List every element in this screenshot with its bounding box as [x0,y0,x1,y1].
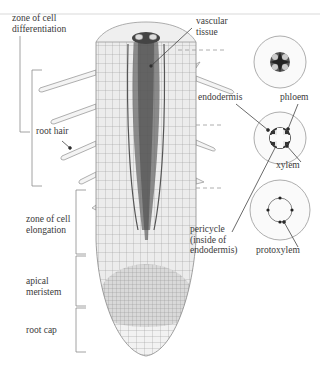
label-zone-of-cell-elongation: zone of cell elongation [26,214,70,235]
label-phloem: phloem [280,92,309,103]
cross-section-middle [254,112,306,164]
root-body [90,40,200,360]
label-endodermis: endodermis [198,92,242,103]
label-xylem: xylem [276,160,300,171]
label-zone-of-cell-differentiation: zone of cell differentiation [12,13,66,34]
label-pericycle: pericycle (inside of endodermis) [190,224,238,256]
cross-section-lower [250,180,310,240]
label-root-hair: root hair [36,126,68,137]
label-vascular-tissue: vascular tissue [196,16,228,37]
root-diagram [0,0,320,366]
label-root-cap: root cap [26,325,57,336]
dome-vascular [132,32,160,44]
label-protoxylem: protoxylem [256,245,300,256]
label-apical-meristem: apical meristem [26,276,61,297]
cross-section-upper [254,36,306,88]
left-brackets [20,36,86,352]
